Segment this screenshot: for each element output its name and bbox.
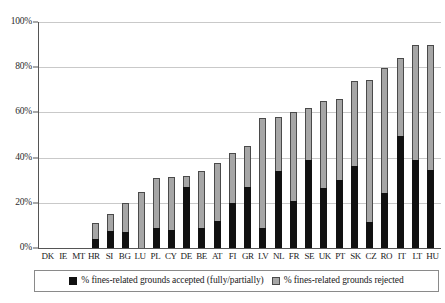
legend-swatch-rejected-icon bbox=[272, 277, 280, 285]
bar-group[interactable] bbox=[347, 22, 362, 248]
bar-group[interactable] bbox=[392, 22, 407, 248]
bar-group[interactable] bbox=[408, 22, 423, 248]
bar-segment-accepted[interactable] bbox=[259, 228, 266, 248]
bar-segment-rejected[interactable] bbox=[92, 223, 99, 239]
bar-segment-rejected[interactable] bbox=[122, 203, 129, 232]
bar-group[interactable] bbox=[301, 22, 316, 248]
bar-group[interactable] bbox=[225, 22, 240, 248]
bar-group[interactable] bbox=[210, 22, 225, 248]
x-axis-tick-label: BG bbox=[117, 250, 132, 264]
bar-segment-rejected[interactable] bbox=[366, 80, 373, 222]
x-axis-tick-label: DE bbox=[179, 250, 194, 264]
bar-segment-accepted[interactable] bbox=[229, 203, 236, 248]
bar-segment-rejected[interactable] bbox=[198, 171, 205, 228]
bar-segment-accepted[interactable] bbox=[336, 180, 343, 248]
bar-segment-rejected[interactable] bbox=[244, 146, 251, 187]
legend-entry[interactable]: % fines-related grounds accepted (fully/… bbox=[69, 276, 263, 286]
bar-group[interactable] bbox=[164, 22, 179, 248]
bar-group[interactable] bbox=[149, 22, 164, 248]
bar-group[interactable] bbox=[88, 22, 103, 248]
bar-group[interactable] bbox=[240, 22, 255, 248]
bars-container bbox=[39, 22, 441, 248]
bar-segment-accepted[interactable] bbox=[198, 228, 205, 248]
bar-segment-rejected[interactable] bbox=[229, 153, 236, 203]
bar-segment-accepted[interactable] bbox=[412, 160, 419, 248]
bar-group[interactable] bbox=[377, 22, 392, 248]
bar-segment-rejected[interactable] bbox=[397, 58, 404, 136]
bar-segment-rejected[interactable] bbox=[138, 192, 145, 249]
x-axis-tick-label: IT bbox=[394, 250, 409, 264]
bar-segment-accepted[interactable] bbox=[366, 222, 373, 248]
bar-segment-accepted[interactable] bbox=[351, 166, 358, 248]
bar-group[interactable] bbox=[72, 22, 87, 248]
bar-group[interactable] bbox=[316, 22, 331, 248]
bar-segment-accepted[interactable] bbox=[381, 193, 388, 248]
bar-group[interactable] bbox=[179, 22, 194, 248]
y-axis-tick-label: 60% bbox=[15, 108, 32, 118]
bar-segment-accepted[interactable] bbox=[290, 201, 297, 248]
bar-segment-accepted[interactable] bbox=[122, 232, 129, 248]
y-axis-tick-label: 0% bbox=[20, 243, 32, 253]
bar-segment-rejected[interactable] bbox=[259, 118, 266, 228]
y-axis-tick-label: 40% bbox=[15, 153, 32, 163]
bar-segment-accepted[interactable] bbox=[107, 231, 114, 248]
bar-segment-accepted[interactable] bbox=[320, 188, 327, 248]
x-axis-tick-label: CY bbox=[163, 250, 178, 264]
bar-segment-rejected[interactable] bbox=[214, 163, 221, 221]
bar-segment-rejected[interactable] bbox=[107, 214, 114, 231]
x-axis-tick-label: FR bbox=[286, 250, 301, 264]
bar-segment-rejected[interactable] bbox=[381, 68, 388, 192]
x-axis-tick-label: LV bbox=[255, 250, 270, 264]
legend-entry[interactable]: % fines-related grounds rejected bbox=[272, 276, 404, 286]
x-axis: DKIEMTHRSIBGLUPLCYDEBEATFIGRLVNLFRSEUKPT… bbox=[39, 250, 441, 264]
bar-segment-accepted[interactable] bbox=[275, 171, 282, 248]
y-axis-tick-label: 80% bbox=[15, 62, 32, 72]
bar-segment-rejected[interactable] bbox=[320, 101, 327, 188]
x-axis-tick-label: BE bbox=[194, 250, 209, 264]
bar-group[interactable] bbox=[194, 22, 209, 248]
x-axis-tick-label: IE bbox=[55, 250, 70, 264]
bar-segment-accepted[interactable] bbox=[427, 170, 434, 248]
bar-segment-accepted[interactable] bbox=[153, 228, 160, 248]
bar-group[interactable] bbox=[362, 22, 377, 248]
bar-group[interactable] bbox=[423, 22, 438, 248]
x-axis-tick-label: MT bbox=[71, 250, 86, 264]
x-axis-tick-label: HU bbox=[425, 250, 440, 264]
legend-swatch-accepted-icon bbox=[69, 277, 77, 285]
bar-segment-rejected[interactable] bbox=[168, 177, 175, 230]
bar-segment-accepted[interactable] bbox=[305, 160, 312, 248]
bar-segment-accepted[interactable] bbox=[183, 187, 190, 248]
bar-segment-accepted[interactable] bbox=[397, 136, 404, 248]
y-axis-tick-label: 100% bbox=[11, 17, 32, 27]
bar-segment-rejected[interactable] bbox=[336, 99, 343, 180]
bar-segment-accepted[interactable] bbox=[244, 187, 251, 248]
bar-group[interactable] bbox=[286, 22, 301, 248]
bar-segment-rejected[interactable] bbox=[305, 108, 312, 160]
bar-group[interactable] bbox=[271, 22, 286, 248]
bar-segment-rejected[interactable] bbox=[275, 117, 282, 171]
bar-segment-rejected[interactable] bbox=[183, 176, 190, 187]
x-axis-tick-label: DK bbox=[40, 250, 55, 264]
bar-segment-rejected[interactable] bbox=[412, 45, 419, 160]
bar-segment-rejected[interactable] bbox=[351, 81, 358, 166]
bar-group[interactable] bbox=[255, 22, 270, 248]
bar-segment-rejected[interactable] bbox=[153, 178, 160, 228]
y-axis-tick-label: 20% bbox=[15, 198, 32, 208]
bar-group[interactable] bbox=[133, 22, 148, 248]
legend-label: % fines-related grounds accepted (fully/… bbox=[81, 276, 263, 286]
bar-segment-rejected[interactable] bbox=[427, 45, 434, 170]
x-axis-tick-label: AT bbox=[209, 250, 224, 264]
bar-segment-rejected[interactable] bbox=[290, 112, 297, 200]
bar-group[interactable] bbox=[118, 22, 133, 248]
chart-legend: % fines-related grounds accepted (fully/… bbox=[34, 270, 439, 292]
bar-group[interactable] bbox=[331, 22, 346, 248]
bar-group[interactable] bbox=[42, 22, 57, 248]
bar-segment-accepted[interactable] bbox=[92, 239, 99, 248]
x-axis-tick-label: NL bbox=[271, 250, 286, 264]
bar-segment-accepted[interactable] bbox=[168, 230, 175, 248]
x-axis-tick-label: GR bbox=[240, 250, 255, 264]
bar-group[interactable] bbox=[57, 22, 72, 248]
x-axis-tick-label: PL bbox=[148, 250, 163, 264]
bar-group[interactable] bbox=[103, 22, 118, 248]
bar-segment-accepted[interactable] bbox=[214, 221, 221, 248]
